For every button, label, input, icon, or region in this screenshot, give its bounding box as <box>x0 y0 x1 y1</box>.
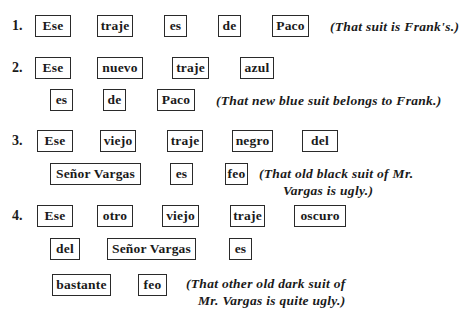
word-box: Señor Vargas <box>50 163 141 185</box>
example-number: 4. <box>12 205 23 227</box>
word-box: feo <box>138 274 167 296</box>
word-box: Ese <box>35 15 71 37</box>
word-box: es <box>164 15 187 37</box>
example-number: 3. <box>12 130 23 152</box>
word-box: de <box>103 89 126 111</box>
translation-line-2: Mr. Vargas is quite ugly.) <box>198 292 346 309</box>
word-box: viejo <box>100 130 136 152</box>
translation: (That new blue suit belongs to Frank.) <box>216 92 442 109</box>
word-box: negro <box>232 130 273 152</box>
word-box: Ese <box>35 57 71 79</box>
word-box: traje <box>167 130 203 152</box>
translation: (That suit is Frank's.) <box>330 18 459 35</box>
word-box: es <box>50 89 73 111</box>
translation-line-1: (That other old dark suit of <box>186 275 346 292</box>
word-box: otro <box>97 205 133 227</box>
word-box: azul <box>240 57 274 79</box>
word-box: del <box>302 130 338 152</box>
example-number: 2. <box>12 57 23 79</box>
word-box: es <box>229 238 252 260</box>
word-box: Ese <box>37 130 73 152</box>
word-box: es <box>170 163 193 185</box>
word-box: viejo <box>162 205 199 227</box>
word-box: Paco <box>272 15 309 37</box>
word-box: traje <box>172 57 209 79</box>
word-box: Ese <box>37 205 73 227</box>
example-number: 1. <box>12 15 23 37</box>
word-box: traje <box>230 205 265 227</box>
word-box: Paco <box>157 89 195 111</box>
word-box: de <box>218 15 241 37</box>
word-box: bastante <box>52 274 111 296</box>
word-box: Señor Vargas <box>107 238 196 260</box>
translation-line-1: (That old black suit of Mr. <box>259 165 413 182</box>
word-box: oscuro <box>294 205 346 227</box>
word-box: traje <box>97 15 133 37</box>
word-box: feo <box>225 163 248 185</box>
word-box: nuevo <box>97 57 143 79</box>
word-box: del <box>50 238 80 260</box>
translation-line-2: Vargas is ugly.) <box>283 182 373 199</box>
